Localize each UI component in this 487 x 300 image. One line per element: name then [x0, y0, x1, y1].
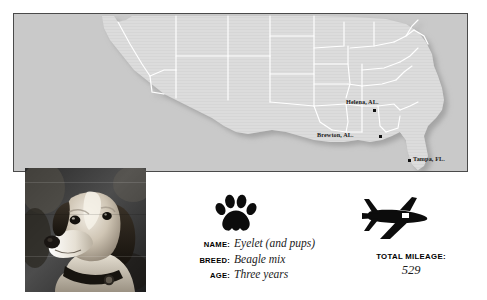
city-dot-tampa — [408, 159, 411, 162]
detail-row-breed: BREED: Beagle mix — [150, 254, 320, 267]
city-label-brewton: Brewton, AL. — [317, 131, 354, 138]
detail-row-age: AGE: Three years — [150, 269, 320, 282]
name-label: NAME: — [150, 240, 234, 249]
paw-print-icon — [214, 192, 258, 234]
dog-photograph — [25, 168, 146, 292]
city-label-helena: Helena, AL. — [346, 98, 379, 105]
total-mileage-label: TOTAL MILEAGE: — [347, 252, 475, 261]
city-dot-brewton — [379, 135, 382, 138]
pet-travel-profile-card: Helena, AL. Brewton, AL. Tampa, FL. — [0, 0, 487, 300]
age-value: Three years — [234, 269, 288, 281]
us-map-graphic — [14, 14, 468, 172]
total-mileage-value: 529 — [347, 264, 475, 277]
airplane-graphic — [358, 193, 432, 241]
airplane-icon — [358, 193, 432, 241]
breed-label: BREED: — [150, 256, 234, 265]
pet-detail-fields: NAME: Eyelet (and pups) BREED: Beagle mi… — [150, 238, 320, 285]
age-label: AGE: — [150, 271, 234, 280]
breed-value: Beagle mix — [234, 254, 285, 266]
city-label-tampa: Tampa, FL. — [413, 155, 445, 162]
city-dot-helena — [373, 109, 376, 112]
dog-photo-graphic — [25, 168, 146, 292]
name-value: Eyelet (and pups) — [234, 238, 315, 250]
paw-print-graphic — [214, 192, 258, 234]
total-mileage-block: TOTAL MILEAGE: 529 — [347, 252, 475, 277]
detail-row-name: NAME: Eyelet (and pups) — [150, 238, 320, 251]
us-map-panel: Helena, AL. Brewton, AL. Tampa, FL. — [13, 13, 468, 172]
